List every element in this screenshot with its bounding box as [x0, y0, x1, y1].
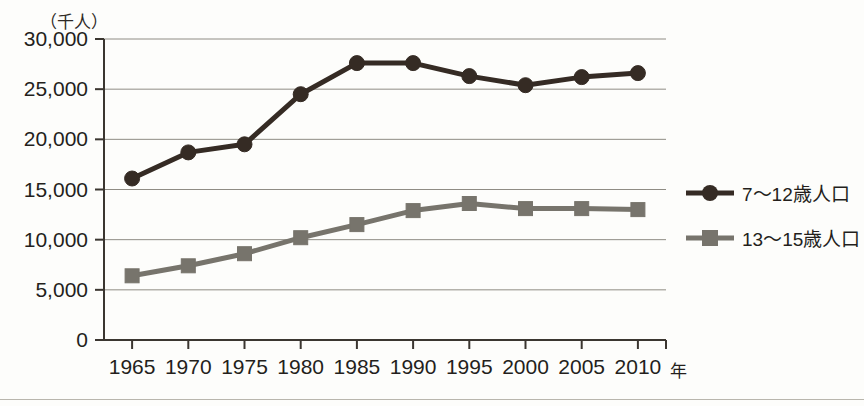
y-tick-label-30000: 30,000	[24, 27, 88, 50]
data-point	[406, 204, 420, 218]
square-marker-icon	[702, 230, 718, 246]
x-tick-label-1990: 1990	[390, 355, 437, 378]
data-point	[293, 87, 308, 102]
legend-entry-2: 13〜15歳人口	[686, 229, 860, 250]
series-line-1	[132, 63, 638, 178]
series-1	[125, 56, 646, 186]
chart-canvas: （千人） 05,00010,00015,00020,00025,00030,00…	[0, 0, 864, 406]
legend-entry-1: 7〜12歳人口	[686, 184, 850, 205]
y-tick-label-5000: 5,000	[35, 278, 88, 301]
y-tick-label-0: 0	[76, 328, 88, 351]
bottom-divider	[0, 399, 864, 400]
x-tick-label-1975: 1975	[221, 355, 268, 378]
data-point	[181, 259, 195, 273]
circle-marker-icon	[702, 185, 718, 201]
data-point	[406, 56, 421, 71]
data-series-layer	[125, 56, 646, 283]
data-point	[349, 56, 364, 71]
x-axis-ticks: 1965197019751980198519901995200020052010	[109, 340, 666, 378]
data-point	[519, 202, 533, 216]
data-point	[462, 69, 477, 84]
y-tick-label-20000: 20,000	[24, 127, 88, 150]
data-point	[575, 202, 589, 216]
data-point	[294, 231, 308, 245]
y-tick-label-10000: 10,000	[24, 228, 88, 251]
x-tick-label-2005: 2005	[558, 355, 605, 378]
data-point	[462, 197, 476, 211]
data-point	[631, 203, 645, 217]
data-point	[125, 269, 139, 283]
population-line-chart: （千人） 05,00010,00015,00020,00025,00030,00…	[0, 0, 864, 406]
legend-label-2: 13〜15歳人口	[742, 229, 860, 250]
x-tick-label-1965: 1965	[109, 355, 156, 378]
data-point	[518, 78, 533, 93]
legend-label-1: 7〜12歳人口	[742, 184, 850, 205]
x-tick-label-1995: 1995	[446, 355, 493, 378]
data-point	[350, 218, 364, 232]
chart-legend: 7〜12歳人口13〜15歳人口	[686, 184, 860, 250]
data-point	[630, 66, 645, 81]
x-axis-unit-label: 年	[670, 362, 687, 381]
data-point	[574, 70, 589, 85]
data-point	[125, 171, 140, 186]
x-tick-label-1985: 1985	[334, 355, 381, 378]
data-point	[237, 137, 252, 152]
data-point	[181, 145, 196, 160]
y-tick-label-15000: 15,000	[24, 178, 88, 201]
y-tick-label-25000: 25,000	[24, 77, 88, 100]
x-tick-label-2000: 2000	[502, 355, 549, 378]
data-point	[238, 247, 252, 261]
x-tick-label-2010: 2010	[615, 355, 662, 378]
x-tick-label-1970: 1970	[165, 355, 212, 378]
y-axis-ticks: 05,00010,00015,00020,00025,00030,000	[24, 27, 104, 351]
x-tick-label-1980: 1980	[277, 355, 324, 378]
